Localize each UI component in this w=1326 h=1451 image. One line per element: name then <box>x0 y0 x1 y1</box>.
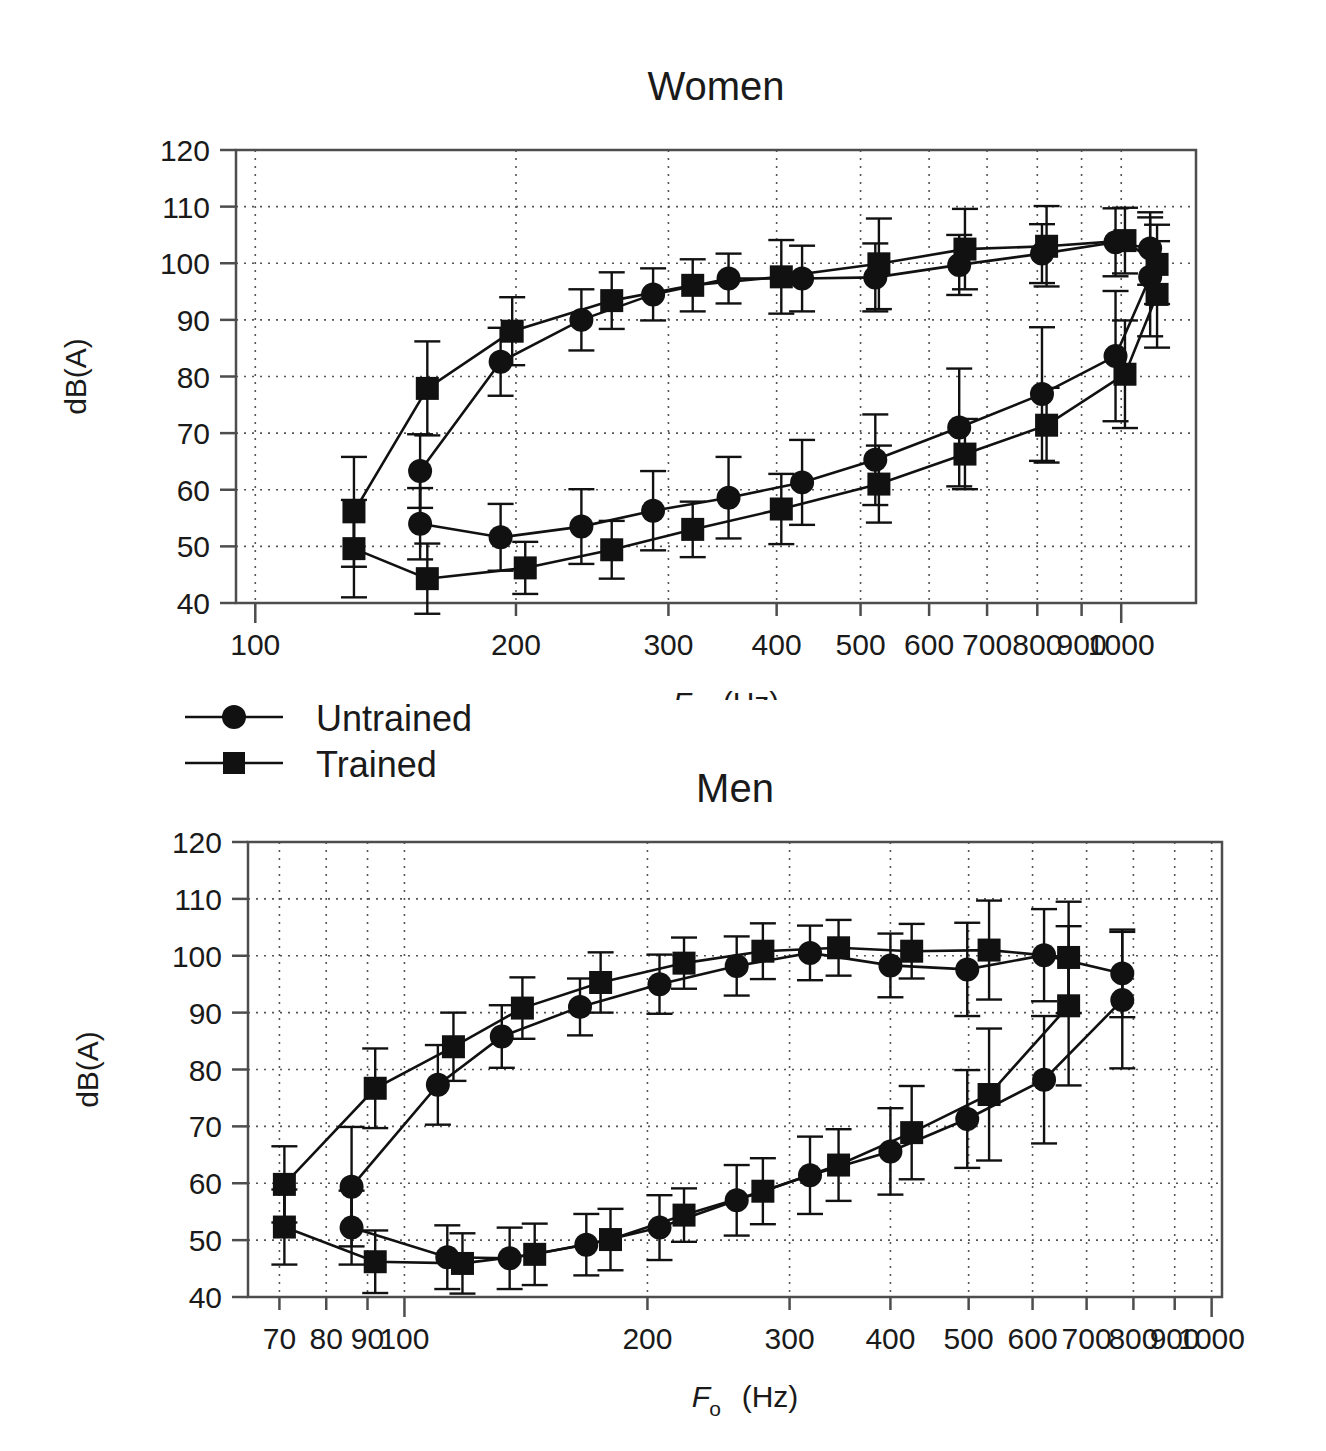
data-point-untrained <box>408 459 432 483</box>
data-point-trained <box>978 1083 1001 1106</box>
data-point-untrained <box>1030 382 1054 406</box>
data-point-trained <box>770 265 793 288</box>
data-point-trained <box>1035 235 1058 258</box>
y-tick-label: 60 <box>177 474 210 507</box>
x-tick-label: 400 <box>865 1322 915 1355</box>
data-point-untrained <box>1110 988 1134 1012</box>
y-tick-label: 40 <box>189 1281 222 1314</box>
data-point-trained <box>867 473 890 496</box>
data-point-untrained <box>717 486 741 510</box>
data-point-untrained <box>798 1163 822 1187</box>
y-tick-label: 50 <box>177 530 210 563</box>
data-point-trained <box>600 289 623 312</box>
data-point-trained <box>1113 229 1136 252</box>
chart-title: Women <box>647 64 784 108</box>
x-tick-label: 800 <box>1012 628 1062 661</box>
data-point-trained <box>1057 946 1080 969</box>
data-point-untrained <box>725 954 749 978</box>
data-point-trained <box>953 443 976 466</box>
data-point-untrained <box>426 1073 450 1097</box>
data-point-trained <box>900 1121 923 1144</box>
data-point-untrained <box>1032 943 1056 967</box>
data-point-untrained <box>647 1216 671 1240</box>
data-point-untrained <box>568 995 592 1019</box>
data-point-untrained <box>1110 961 1134 985</box>
x-axis-label-unit: (Hz) <box>742 1380 799 1413</box>
figure-root: Women40506070809010011012010020030040050… <box>0 0 1326 1451</box>
y-tick-label: 80 <box>189 1054 222 1087</box>
x-tick-label: 1000 <box>1178 1322 1245 1355</box>
x-tick-label: 700 <box>1062 1322 1112 1355</box>
data-point-trained <box>673 952 696 975</box>
data-point-trained <box>342 537 365 560</box>
data-point-untrained <box>641 499 665 523</box>
x-tick-label: 300 <box>643 628 693 661</box>
data-point-untrained <box>1032 1068 1056 1092</box>
x-tick-label: 100 <box>230 628 280 661</box>
data-point-trained <box>599 1228 622 1251</box>
data-point-trained <box>770 498 793 521</box>
data-point-trained <box>364 1077 387 1100</box>
y-tick-label: 50 <box>189 1224 222 1257</box>
data-point-trained <box>751 940 774 963</box>
data-point-trained <box>600 538 623 561</box>
data-point-trained <box>273 1216 296 1239</box>
x-tick-label: 200 <box>491 628 541 661</box>
y-tick-label: 100 <box>160 247 210 280</box>
chart-panel-men: Men4050607080901001101207080901002003004… <box>0 760 1326 1451</box>
data-point-untrained <box>489 525 513 549</box>
legend-marker-circle <box>222 705 246 729</box>
y-tick-label: 70 <box>177 417 210 450</box>
y-tick-label: 90 <box>189 997 222 1030</box>
data-point-untrained <box>569 308 593 332</box>
data-point-trained <box>751 1180 774 1203</box>
data-point-trained <box>1113 363 1136 386</box>
x-tick-label: 700 <box>962 628 1012 661</box>
chart-title: Men <box>696 766 774 810</box>
x-tick-label: 600 <box>904 628 954 661</box>
data-point-untrained <box>798 941 822 965</box>
data-point-trained <box>589 971 612 994</box>
data-point-untrained <box>955 957 979 981</box>
x-tick-label: 400 <box>752 628 802 661</box>
data-point-untrained <box>790 267 814 291</box>
y-tick-label: 80 <box>177 361 210 394</box>
data-point-trained <box>681 274 704 297</box>
data-point-trained <box>1146 283 1169 306</box>
data-point-untrained <box>498 1246 522 1270</box>
data-point-untrained <box>863 448 887 472</box>
legend-item-untrained[interactable]: Untrained <box>185 698 472 739</box>
x-tick-label: 300 <box>765 1322 815 1355</box>
data-point-trained <box>1057 994 1080 1017</box>
y-tick-label: 40 <box>177 587 210 620</box>
data-point-trained <box>1035 414 1058 437</box>
data-point-untrained <box>947 415 971 439</box>
x-axis-label: Fo(Hz) <box>692 1380 798 1420</box>
y-tick-label: 120 <box>160 134 210 167</box>
x-tick-label: 80 <box>310 1322 343 1355</box>
y-tick-label: 90 <box>177 304 210 337</box>
data-point-untrained <box>641 282 665 306</box>
x-tick-label: 500 <box>944 1322 994 1355</box>
x-tick-label: 100 <box>379 1322 429 1355</box>
data-point-trained <box>501 320 524 343</box>
data-point-untrained <box>574 1233 598 1257</box>
data-point-trained <box>364 1250 387 1273</box>
data-point-trained <box>511 997 534 1020</box>
data-point-trained <box>681 518 704 541</box>
data-point-trained <box>867 252 890 275</box>
data-point-trained <box>978 939 1001 962</box>
data-point-trained <box>416 567 439 590</box>
data-point-trained <box>953 238 976 261</box>
data-point-untrained <box>790 470 814 494</box>
series-line-trained-upper <box>284 948 1068 1185</box>
men-chart-svg: Men4050607080901001101207080901002003004… <box>0 760 1326 1451</box>
x-tick-label: 1000 <box>1088 628 1155 661</box>
y-tick-label: 70 <box>189 1110 222 1143</box>
y-tick-label: 120 <box>172 826 222 859</box>
women-chart-svg: Women40506070809010011012010020030040050… <box>0 0 1326 700</box>
y-tick-label: 100 <box>172 940 222 973</box>
data-point-trained <box>442 1035 465 1058</box>
x-tick-label: 200 <box>622 1322 672 1355</box>
data-point-untrained <box>955 1107 979 1131</box>
